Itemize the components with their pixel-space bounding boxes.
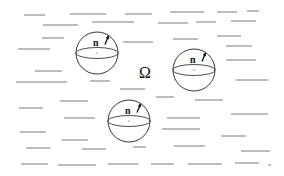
- domain-label-omega: Ω: [139, 64, 151, 81]
- diagram-figure: nnn Ω: [0, 0, 284, 176]
- sphere-inclusion: n: [173, 49, 215, 91]
- sphere-inclusion: n: [76, 32, 118, 74]
- diagram-canvas: nnn Ω: [0, 0, 284, 176]
- sphere-center-dot: [96, 52, 97, 53]
- spheres-group: nnn: [76, 32, 215, 142]
- sphere-inclusion: n: [108, 100, 150, 142]
- normal-label: n: [93, 37, 99, 48]
- sphere-center-dot: [128, 120, 129, 121]
- background-strokes: [16, 11, 271, 165]
- normal-label: n: [190, 54, 196, 65]
- sphere-center-dot: [193, 69, 194, 70]
- normal-label: n: [125, 105, 131, 116]
